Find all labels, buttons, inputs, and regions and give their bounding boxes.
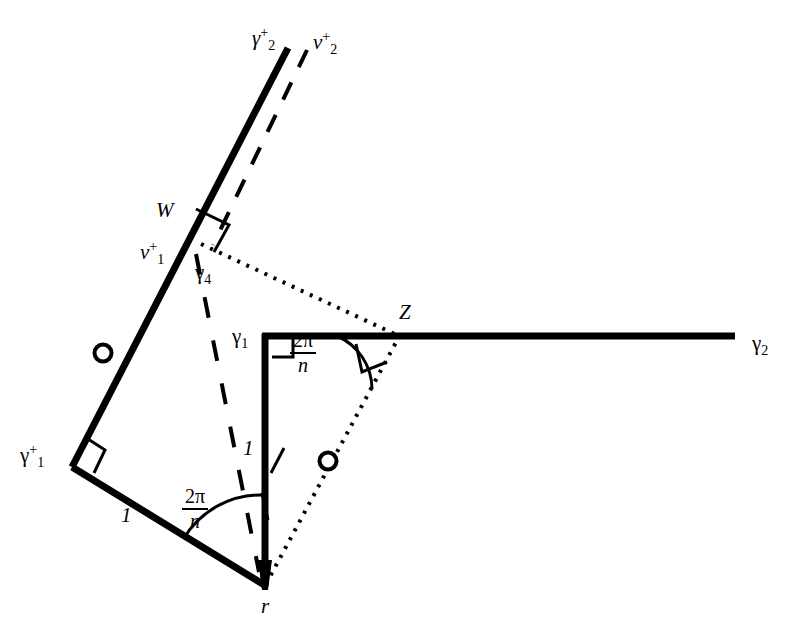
label-gamma2-plus-sup: +: [260, 25, 268, 40]
label-gamma1-plus-base: γ: [20, 443, 29, 467]
dotted-lines: [201, 244, 401, 584]
W-to-Z-dotted-line: [201, 244, 399, 336]
label-v1-plus-base: v: [140, 240, 149, 264]
label-side-one-left: 1: [121, 505, 132, 526]
label-v1-plus: v+1: [140, 240, 164, 267]
label-side-one-vertical: 1: [243, 438, 254, 459]
label-v2-plus-sub: 2: [330, 42, 337, 57]
angle-label-at-r-denominator: n: [182, 510, 208, 532]
label-W: W: [156, 200, 174, 221]
label-gamma2-right: γ2: [752, 333, 768, 358]
label-v1-plus-sub: 1: [157, 252, 164, 267]
arc-at-r-tick-b: [271, 448, 284, 473]
midpoint-marker-dotted-icon: [320, 453, 337, 470]
angle-label-at-Z: 2π n: [290, 330, 316, 376]
label-gamma2-right-base: γ: [752, 331, 761, 355]
v2-plus-parallel-line: [213, 50, 307, 245]
label-r: r: [261, 596, 269, 617]
label-Z: Z: [399, 302, 411, 323]
angle-label-at-Z-numerator: 2π: [290, 330, 316, 352]
label-gamma4-base: γ: [195, 260, 204, 284]
label-gamma1-corner-base: γ: [232, 324, 241, 348]
label-gamma1-plus: γ+1: [20, 443, 44, 470]
right-angle-at-Z-icon: [356, 344, 387, 372]
geodesic-gamma2-plus-line: [72, 48, 288, 467]
label-gamma2-plus-sub: 2: [268, 38, 275, 53]
label-gamma4: γ4: [195, 262, 211, 287]
angle-arcs: [184, 336, 372, 538]
angle-label-at-Z-denominator: n: [290, 354, 316, 376]
geometry-figure: γ+2 v+2 W v+1 γ4 γ1 Z γ2 γ+1 1 1 r 2π n …: [0, 0, 806, 643]
arc-at-Z-icon: [337, 336, 372, 389]
label-gamma2-right-sub: 2: [761, 343, 768, 358]
label-gamma2-plus: γ+2: [252, 26, 275, 53]
label-v2-plus: v+2: [313, 30, 337, 57]
label-gamma1-plus-sup: +: [29, 442, 37, 457]
label-gamma1-corner-sub: 1: [241, 336, 248, 351]
angle-label-at-r: 2π n: [182, 486, 208, 532]
geodesic-gamma1-plus-to-r-line: [72, 467, 266, 586]
label-v2-plus-base: v: [313, 30, 322, 54]
dashed-lines: [196, 50, 307, 572]
label-gamma1-corner: γ1: [232, 326, 248, 351]
label-gamma1-plus-sub: 1: [37, 455, 44, 470]
midpoint-marker-left-icon: [95, 345, 112, 362]
label-gamma4-sub: 4: [204, 272, 211, 287]
angle-label-at-r-numerator: 2π: [182, 486, 208, 508]
